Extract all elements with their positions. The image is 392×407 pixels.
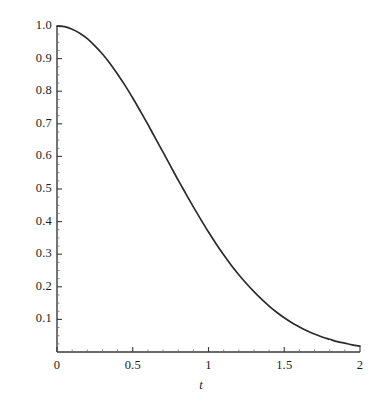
y-tick-label: 0.5 (12, 181, 52, 196)
data-series-curve (57, 26, 360, 346)
y-tick-label: 0.1 (12, 311, 52, 326)
x-tick-label: 0 (37, 358, 77, 373)
axes-group (57, 26, 360, 352)
y-tick-label: 1.0 (12, 18, 52, 33)
y-tick-label: 0.6 (12, 148, 52, 163)
y-tick-label: 0.7 (12, 116, 52, 131)
x-tick-label: 0.5 (113, 358, 153, 373)
x-axis-title: t (191, 378, 211, 393)
chart-figure: 0.10.20.30.40.50.60.70.80.91.0 00.511.52… (0, 0, 392, 407)
y-tick-label: 0.2 (12, 279, 52, 294)
y-tick-label: 0.3 (12, 246, 52, 261)
x-tick-label: 1 (189, 358, 229, 373)
y-tick-label: 0.4 (12, 214, 52, 229)
plot-canvas (0, 0, 392, 407)
x-tick-label: 1.5 (264, 358, 304, 373)
y-tick-label: 0.8 (12, 83, 52, 98)
y-tick-label: 0.9 (12, 51, 52, 66)
x-tick-label: 2 (340, 358, 380, 373)
